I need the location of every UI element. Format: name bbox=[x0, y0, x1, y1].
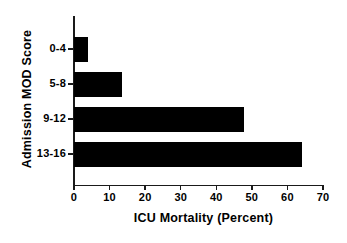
x-axis-tick-label: 0 bbox=[54, 191, 94, 203]
x-axis-tick bbox=[73, 185, 74, 190]
y-axis-tick bbox=[68, 83, 73, 84]
x-axis-tick-label: 60 bbox=[267, 191, 307, 203]
x-axis-tick bbox=[109, 185, 110, 190]
bar bbox=[74, 107, 244, 132]
x-axis-tick bbox=[251, 185, 252, 190]
bar-chart-figure: Admission MOD Score ICU Mortality (Perce… bbox=[0, 0, 347, 243]
y-axis-tick bbox=[68, 118, 73, 119]
y-axis-tick-label: 9-12 bbox=[6, 112, 66, 124]
x-axis-tick-label: 50 bbox=[232, 191, 272, 203]
x-axis-tick-label: 10 bbox=[90, 191, 130, 203]
x-axis-tick bbox=[322, 185, 323, 190]
y-axis-tick-label: 5-8 bbox=[6, 77, 66, 89]
x-axis-tick-label: 30 bbox=[161, 191, 201, 203]
y-axis-tick bbox=[68, 48, 73, 49]
x-axis-tick-label: 40 bbox=[196, 191, 236, 203]
x-axis-tick bbox=[287, 185, 288, 190]
x-axis-tick bbox=[180, 185, 181, 190]
x-axis-tick-label: 70 bbox=[303, 191, 343, 203]
y-axis-title: Admission MOD Score bbox=[20, 4, 34, 194]
x-axis-title: ICU Mortality (Percent) bbox=[0, 211, 347, 225]
x-axis-tick bbox=[216, 185, 217, 190]
bar bbox=[74, 37, 88, 62]
bar bbox=[74, 142, 302, 167]
y-axis-tick bbox=[68, 153, 73, 154]
bar bbox=[74, 72, 122, 97]
x-axis-tick bbox=[144, 185, 145, 190]
y-axis-tick-label: 0-4 bbox=[6, 42, 66, 54]
y-axis-tick-label: 13-16 bbox=[6, 147, 66, 159]
x-axis-tick-label: 20 bbox=[125, 191, 165, 203]
